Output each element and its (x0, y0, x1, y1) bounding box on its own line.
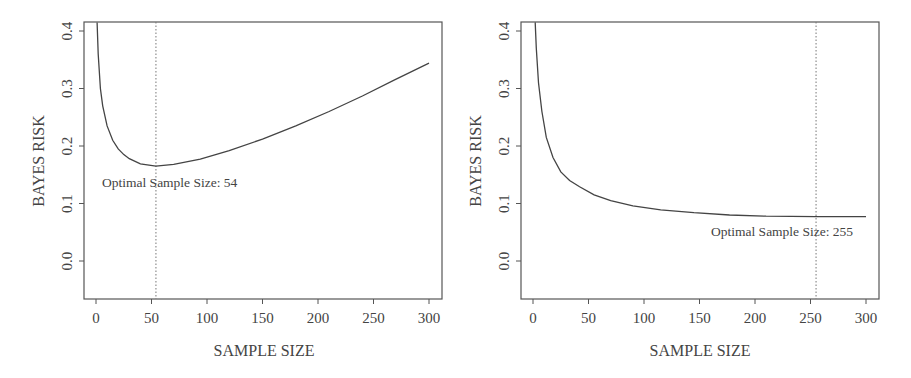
x-tick-label: 100 (633, 310, 656, 326)
y-tick-label: 0.0 (496, 252, 512, 271)
plot-frame (84, 22, 442, 299)
optimal-size-annotation: Optimal Sample Size: 255 (711, 224, 853, 239)
x-axis-label: SAMPLE SIZE (214, 342, 315, 359)
x-tick-label: 250 (362, 310, 385, 326)
y-tick-label: 0.1 (59, 194, 75, 213)
x-axis-label: SAMPLE SIZE (650, 342, 751, 359)
right-chart-panel: 0.00.10.20.30.4 050100150200250300 Optim… (455, 0, 911, 378)
x-tick-label: 300 (855, 310, 878, 326)
y-axis-label: BAYES RISK (30, 115, 47, 207)
y-tick-label: 0.3 (59, 79, 75, 98)
y-tick-label: 0.3 (496, 79, 512, 98)
x-axis-ticks: 050100150200250300 (529, 299, 877, 326)
x-tick-label: 100 (196, 310, 219, 326)
y-axis-ticks: 0.00.10.20.30.4 (59, 21, 84, 270)
x-tick-label: 300 (418, 310, 441, 326)
x-tick-label: 150 (251, 310, 274, 326)
x-tick-label: 200 (307, 310, 330, 326)
x-tick-label: 50 (144, 310, 159, 326)
x-tick-label: 150 (688, 310, 711, 326)
left-chart-panel: 0.00.10.20.30.4 050100150200250300 Optim… (0, 0, 455, 378)
optimal-size-annotation: Optimal Sample Size: 54 (102, 175, 238, 190)
y-tick-label: 0.2 (59, 137, 75, 156)
y-axis-label: BAYES RISK (467, 115, 484, 207)
x-axis-ticks: 050100150200250300 (92, 299, 440, 326)
bayes-risk-curve (97, 22, 429, 166)
x-tick-label: 200 (744, 310, 767, 326)
right-chart: 0.00.10.20.30.4 050100150200250300 Optim… (455, 0, 911, 378)
plot-frame (521, 22, 879, 299)
x-tick-label: 0 (529, 310, 537, 326)
x-tick-label: 0 (92, 310, 100, 326)
y-tick-label: 0.0 (59, 252, 75, 271)
y-axis-ticks: 0.00.10.20.30.4 (496, 21, 521, 270)
y-tick-label: 0.4 (59, 21, 75, 40)
y-tick-label: 0.1 (496, 194, 512, 213)
x-tick-label: 50 (581, 310, 596, 326)
left-chart: 0.00.10.20.30.4 050100150200250300 Optim… (0, 0, 455, 378)
x-tick-label: 250 (799, 310, 822, 326)
y-tick-label: 0.2 (496, 137, 512, 156)
y-tick-label: 0.4 (496, 21, 512, 40)
